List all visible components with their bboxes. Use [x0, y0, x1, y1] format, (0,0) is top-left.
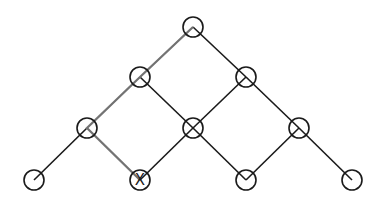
edge: [193, 27, 246, 77]
nodes-layer: X: [24, 17, 362, 190]
node-label: X: [135, 171, 145, 189]
edge: [34, 128, 87, 180]
highlighted-path-layer: [87, 27, 193, 180]
edge: [246, 128, 299, 180]
edge: [246, 77, 299, 128]
edge: [193, 128, 246, 180]
highlighted-path: [87, 27, 193, 180]
diagram-svg: X: [0, 0, 385, 210]
edge: [140, 77, 193, 128]
node-n7: X: [130, 170, 150, 190]
edge: [299, 128, 352, 180]
edge: [140, 128, 193, 180]
edge: [193, 77, 246, 128]
edges-layer: [34, 27, 352, 180]
lattice-diagram: X: [0, 0, 385, 210]
